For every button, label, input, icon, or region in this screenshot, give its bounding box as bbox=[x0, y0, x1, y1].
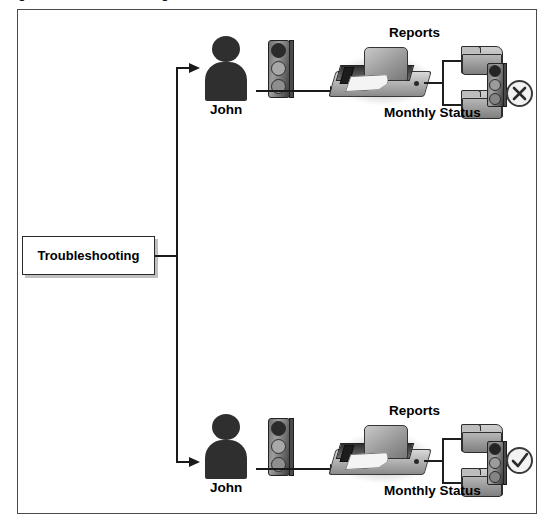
person-head bbox=[212, 414, 240, 440]
traffic-light-lamp-middle bbox=[271, 439, 286, 454]
connector-root-stem bbox=[155, 255, 178, 257]
person-icon bbox=[198, 36, 254, 106]
computer-icon bbox=[330, 423, 436, 485]
person-body bbox=[205, 62, 247, 101]
troubleshooting-node-label: Troubleshooting bbox=[38, 248, 140, 263]
bracket-upper-arm bbox=[442, 438, 462, 440]
bracket-vertical bbox=[442, 438, 444, 484]
traffic-light-lamp-top bbox=[271, 43, 286, 58]
figure-caption: Figure 11-5: Troubleshooting Problems wi… bbox=[8, 0, 358, 1]
flow-arrow-line-bottom bbox=[256, 468, 332, 470]
traffic-light-lamp-top bbox=[271, 421, 286, 436]
traffic-light-lamp-middle bbox=[271, 61, 286, 76]
traffic-light-lamp-top bbox=[489, 443, 501, 455]
connector-branch-bottom bbox=[176, 461, 190, 463]
actor-label-top: John bbox=[186, 102, 266, 117]
traffic-light-lamp-middle bbox=[489, 457, 501, 469]
actor-label-bottom: John bbox=[186, 480, 266, 495]
resource-label-reports-bottom: Reports bbox=[389, 403, 440, 418]
figure-page: Figure 11-5: Troubleshooting Problems wi… bbox=[0, 0, 545, 526]
bracket-upper-arm bbox=[442, 60, 462, 62]
folder-tab bbox=[461, 468, 481, 475]
circle-x-icon bbox=[506, 80, 533, 107]
traffic-light-lamp-bottom bbox=[489, 471, 501, 483]
resource-label-monthly-status-top: Monthly Status bbox=[384, 105, 481, 120]
circle-check-icon bbox=[506, 447, 533, 474]
resource-label-reports-top: Reports bbox=[389, 25, 440, 40]
computer-indicator bbox=[414, 459, 419, 464]
computer-icon bbox=[330, 45, 436, 107]
folder-tab bbox=[461, 424, 481, 431]
traffic-light-icon bbox=[487, 441, 507, 485]
connector-vertical-spine bbox=[176, 67, 178, 463]
folder-tab bbox=[461, 90, 481, 97]
traffic-light-pole bbox=[503, 63, 507, 107]
resource-label-monthly-status-bottom: Monthly Status bbox=[384, 483, 481, 498]
bracket-stem bbox=[424, 82, 443, 84]
traffic-light-lamp-middle bbox=[489, 79, 501, 91]
person-head bbox=[212, 36, 240, 62]
traffic-light-lamp-top bbox=[489, 65, 501, 77]
troubleshooting-node[interactable]: Troubleshooting bbox=[22, 236, 155, 275]
bracket-vertical bbox=[442, 60, 444, 106]
traffic-light-lamp-bottom bbox=[489, 93, 501, 105]
connector-branch-top bbox=[176, 67, 190, 69]
person-icon bbox=[198, 414, 254, 484]
flow-arrow-line-top bbox=[256, 90, 332, 92]
traffic-light-icon bbox=[487, 63, 507, 107]
computer-indicator bbox=[414, 81, 419, 86]
bracket-stem bbox=[424, 460, 443, 462]
folder-tab bbox=[461, 46, 481, 53]
person-body bbox=[205, 440, 247, 479]
